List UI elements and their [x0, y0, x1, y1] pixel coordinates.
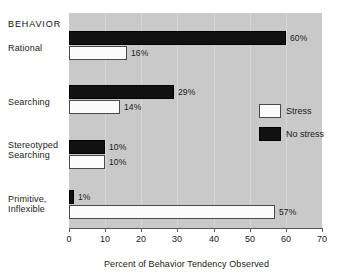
bar-stereotyped-searching-stress	[69, 155, 105, 169]
x-axis-line	[69, 228, 322, 229]
xtick-label-50: 50	[245, 234, 255, 244]
bar-rational-no-stress	[69, 31, 286, 45]
x-axis-title: Percent of Behavior Tendency Observed	[104, 259, 269, 269]
category-label-line1: Primitive,	[8, 194, 47, 204]
xtick-label-0: 0	[66, 234, 71, 244]
xtick-label-40: 40	[209, 234, 219, 244]
bar-rational-stress	[69, 46, 127, 60]
y-axis-heading: BEHAVIOR	[8, 19, 61, 29]
xtick-label-60: 60	[281, 234, 291, 244]
bar-primitive-inflexible-stress	[69, 205, 275, 219]
category-label-line1: Stereotyped	[8, 140, 58, 150]
xtick-label-30: 30	[172, 234, 182, 244]
xtick-label-70: 70	[317, 234, 327, 244]
category-label-line1: Searching	[8, 97, 50, 107]
bar-value-stereotyped-searching-stress: 10%	[109, 155, 126, 169]
tickmark-50	[250, 228, 251, 232]
bar-searching-no-stress	[69, 85, 174, 99]
tickmark-30	[177, 228, 178, 232]
x-axis-title-wrapper: Percent of Behavior Tendency Observed	[0, 259, 349, 269]
tickmark-40	[214, 228, 215, 232]
gridline-60	[286, 13, 287, 228]
legend-label-no-stress: No stress	[286, 127, 324, 141]
legend-swatch-stress-icon	[259, 104, 281, 118]
bar-searching-stress	[69, 100, 120, 114]
gridline-40	[214, 13, 215, 228]
tickmark-0	[69, 228, 70, 232]
legend-label-stress: Stress	[286, 104, 312, 118]
gridline-50	[250, 13, 251, 228]
bar-value-rational-no-stress: 60%	[290, 31, 307, 45]
gridline-30	[177, 13, 178, 228]
bar-value-stereotyped-searching-no-stress: 10%	[109, 140, 126, 154]
tickmark-60	[286, 228, 287, 232]
tickmark-10	[105, 228, 106, 232]
bar-value-primitive-inflexible-no-stress: 1%	[78, 190, 91, 204]
legend-swatch-no-stress-icon	[259, 127, 281, 141]
bar-value-searching-stress: 14%	[124, 100, 141, 114]
tickmark-20	[141, 228, 142, 232]
category-label-stereotyped-searching: Stereotyped Searching	[8, 140, 58, 160]
tickmark-70	[322, 228, 323, 232]
category-label-line2: Searching	[8, 150, 58, 160]
bar-value-searching-no-stress: 29%	[178, 85, 195, 99]
category-label-line2: Inflexible	[8, 204, 47, 214]
xtick-label-10: 10	[100, 234, 110, 244]
category-label-rational: Rational	[8, 43, 42, 53]
category-label-searching: Searching	[8, 97, 50, 107]
bar-stereotyped-searching-no-stress	[69, 140, 105, 154]
bar-value-rational-stress: 16%	[131, 46, 148, 60]
category-label-line1: Rational	[8, 43, 42, 53]
chart-figure: BEHAVIOR Rational Searching Stereotyped …	[0, 0, 349, 280]
bar-value-primitive-inflexible-stress: 57%	[279, 205, 296, 219]
xtick-label-20: 20	[136, 234, 146, 244]
bar-primitive-inflexible-no-stress	[69, 190, 74, 204]
category-label-primitive-inflexible: Primitive, Inflexible	[8, 194, 47, 214]
